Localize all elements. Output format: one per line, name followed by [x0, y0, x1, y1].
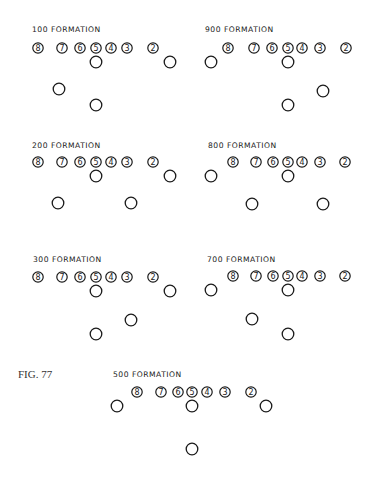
lineman-8: 8 — [223, 43, 233, 53]
lineman-6: 6 — [267, 43, 277, 53]
formation-f800: 8765432 — [205, 157, 350, 210]
svg-text:2: 2 — [150, 158, 155, 167]
svg-text:6: 6 — [77, 158, 82, 167]
lineman-8: 8 — [228, 157, 238, 167]
svg-text:7: 7 — [253, 158, 258, 167]
formation-f100: 8765432 — [33, 43, 176, 111]
formation-title: 200 FORMATION — [32, 141, 101, 150]
figure-label: FIG. 77 — [18, 368, 52, 380]
formations-diagram: 8765432876543287654328765432876543287654… — [0, 0, 374, 477]
back-player — [111, 400, 123, 412]
formation-title: 900 FORMATION — [205, 25, 274, 34]
svg-text:2: 2 — [248, 388, 253, 397]
svg-text:3: 3 — [317, 158, 322, 167]
svg-text:4: 4 — [108, 44, 113, 53]
svg-text:8: 8 — [230, 158, 235, 167]
svg-text:5: 5 — [189, 388, 194, 397]
back-player — [164, 56, 176, 68]
lineman-2: 2 — [148, 157, 158, 167]
lineman-8: 8 — [132, 387, 142, 397]
svg-text:6: 6 — [270, 272, 275, 281]
lineman-4: 4 — [106, 43, 116, 53]
lineman-2: 2 — [340, 271, 350, 281]
formation-title: 800 FORMATION — [208, 141, 277, 150]
back-player — [90, 285, 102, 297]
back-player — [90, 56, 102, 68]
formation-title: 300 FORMATION — [33, 255, 102, 264]
svg-text:7: 7 — [253, 272, 258, 281]
back-player — [282, 328, 294, 340]
lineman-5: 5 — [91, 272, 101, 282]
svg-text:3: 3 — [124, 44, 129, 53]
svg-text:7: 7 — [251, 44, 256, 53]
back-player — [282, 170, 294, 182]
back-player — [205, 284, 217, 296]
lineman-5: 5 — [283, 157, 293, 167]
formation-f900: 8765432 — [205, 43, 351, 111]
back-player — [205, 170, 217, 182]
lineman-7: 7 — [156, 387, 166, 397]
lineman-7: 7 — [57, 43, 67, 53]
lineman-2: 2 — [148, 272, 158, 282]
lineman-7: 7 — [57, 157, 67, 167]
lineman-3: 3 — [315, 271, 325, 281]
lineman-6: 6 — [75, 272, 85, 282]
svg-text:4: 4 — [299, 272, 304, 281]
back-player — [125, 197, 137, 209]
lineman-2: 2 — [340, 157, 350, 167]
back-player — [282, 99, 294, 111]
lineman-8: 8 — [33, 157, 43, 167]
svg-text:6: 6 — [175, 388, 180, 397]
lineman-3: 3 — [122, 157, 132, 167]
formation-title: 100 FORMATION — [32, 25, 101, 34]
svg-text:5: 5 — [93, 158, 98, 167]
lineman-5: 5 — [283, 43, 293, 53]
lineman-3: 3 — [315, 43, 325, 53]
svg-text:4: 4 — [204, 388, 209, 397]
back-player — [186, 400, 198, 412]
svg-text:6: 6 — [269, 44, 274, 53]
back-player — [246, 313, 258, 325]
svg-text:5: 5 — [285, 272, 290, 281]
svg-text:6: 6 — [77, 273, 82, 282]
back-player — [317, 85, 329, 97]
back-player — [90, 328, 102, 340]
svg-text:6: 6 — [77, 44, 82, 53]
formation-f300: 8765432 — [33, 272, 176, 340]
svg-text:8: 8 — [35, 158, 40, 167]
svg-text:7: 7 — [158, 388, 163, 397]
svg-text:4: 4 — [299, 158, 304, 167]
svg-text:3: 3 — [317, 44, 322, 53]
svg-text:8: 8 — [35, 44, 40, 53]
svg-text:5: 5 — [285, 44, 290, 53]
back-player — [52, 197, 64, 209]
lineman-6: 6 — [268, 157, 278, 167]
svg-text:8: 8 — [35, 273, 40, 282]
lineman-2: 2 — [246, 387, 256, 397]
svg-text:3: 3 — [222, 388, 227, 397]
lineman-6: 6 — [173, 387, 183, 397]
svg-text:3: 3 — [124, 158, 129, 167]
svg-text:2: 2 — [150, 44, 155, 53]
lineman-6: 6 — [268, 271, 278, 281]
formation-title: 700 FORMATION — [207, 255, 276, 264]
lineman-3: 3 — [315, 157, 325, 167]
svg-text:5: 5 — [285, 158, 290, 167]
svg-text:8: 8 — [230, 272, 235, 281]
svg-text:2: 2 — [342, 272, 347, 281]
svg-text:5: 5 — [93, 44, 98, 53]
svg-text:3: 3 — [317, 272, 322, 281]
lineman-4: 4 — [297, 157, 307, 167]
lineman-3: 3 — [122, 272, 132, 282]
back-player — [282, 56, 294, 68]
svg-text:5: 5 — [93, 273, 98, 282]
svg-text:7: 7 — [59, 44, 64, 53]
back-player — [53, 83, 65, 95]
svg-text:7: 7 — [59, 273, 64, 282]
svg-text:4: 4 — [108, 158, 113, 167]
back-player — [164, 170, 176, 182]
back-player — [260, 400, 272, 412]
back-player — [246, 198, 258, 210]
back-player — [205, 56, 217, 68]
lineman-5: 5 — [91, 157, 101, 167]
